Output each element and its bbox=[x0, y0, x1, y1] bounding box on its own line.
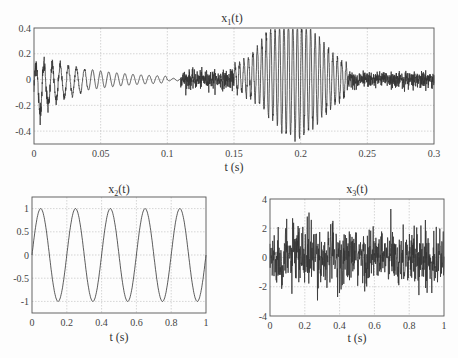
y-tick-label: -0.4 bbox=[15, 126, 31, 137]
x-tick-label: 0.15 bbox=[225, 148, 243, 159]
x-tick-label: 1 bbox=[442, 320, 447, 331]
chart-x2: x2(t) 00.20.40.60.8110.50-0.5-1 t (s) bbox=[13, 182, 208, 344]
x-tick-label: 1 bbox=[204, 317, 209, 328]
chart-x3: x3(t) 00.20.40.60.81420-2-4 t (s) bbox=[259, 182, 447, 345]
x-tick-label: 0.6 bbox=[368, 320, 381, 331]
x-tick-label: 0.8 bbox=[165, 317, 178, 328]
x-tick-label: 0.05 bbox=[92, 148, 110, 159]
chart-x3-title: x3(t) bbox=[346, 182, 367, 198]
y-tick-label: 1 bbox=[24, 203, 29, 214]
x-tick-label: 0.6 bbox=[130, 317, 143, 328]
y-tick-label: 0 bbox=[262, 252, 267, 263]
x-tick-label: 0.25 bbox=[359, 148, 377, 159]
chart-x3-xlabel: t (s) bbox=[348, 331, 367, 345]
y-tick-label: 0 bbox=[24, 250, 29, 261]
x-tick-label: 0.2 bbox=[299, 320, 312, 331]
chart-x1-xlabel: t (s) bbox=[225, 160, 244, 174]
chart-x2-title: x2(t) bbox=[108, 182, 129, 198]
chart-x2-ticks: 00.20.40.60.8110.50-0.5-1 bbox=[13, 203, 208, 328]
x-tick-label: 0.2 bbox=[61, 317, 74, 328]
y-tick-label: 4 bbox=[262, 194, 267, 205]
y-tick-label: 2 bbox=[262, 223, 267, 234]
y-tick-label: -0.2 bbox=[15, 100, 31, 111]
chart-x1-title: x1(t) bbox=[221, 11, 242, 27]
x-tick-label: 0 bbox=[32, 148, 37, 159]
y-tick-label: 0.2 bbox=[19, 48, 32, 59]
x-tick-label: 0.3 bbox=[428, 148, 441, 159]
y-tick-label: -0.5 bbox=[13, 273, 29, 284]
x-tick-label: 0 bbox=[268, 320, 273, 331]
x-tick-label: 0.2 bbox=[294, 148, 307, 159]
chart-x1: x1(t) 00.050.10.150.20.250.30.40.20-0.2-… bbox=[15, 11, 440, 174]
x-tick-label: 0.8 bbox=[403, 320, 416, 331]
chart-x1-ticks: 00.050.10.150.20.250.30.40.20-0.2-0.4 bbox=[15, 23, 440, 160]
chart-x2-xlabel: t (s) bbox=[110, 330, 129, 344]
y-tick-label: 0.4 bbox=[19, 23, 32, 34]
x-tick-label: 0.4 bbox=[333, 320, 346, 331]
y-tick-label: -4 bbox=[259, 311, 267, 322]
figure: x1(t) 00.050.10.150.20.250.30.40.20-0.2-… bbox=[0, 0, 458, 358]
y-tick-label: 0 bbox=[26, 74, 31, 85]
y-tick-label: -2 bbox=[259, 281, 267, 292]
x-tick-label: 0.1 bbox=[161, 148, 174, 159]
x-tick-label: 0.4 bbox=[95, 317, 108, 328]
y-tick-label: -1 bbox=[21, 296, 29, 307]
x-tick-label: 0 bbox=[30, 317, 35, 328]
y-tick-label: 0.5 bbox=[17, 226, 30, 237]
chart-x1-grid bbox=[34, 28, 434, 144]
